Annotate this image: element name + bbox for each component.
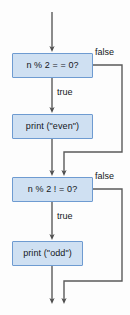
decision-node-even[interactable]: n % 2 = = 0? [12,53,93,78]
flowchart-diagram: n % 2 = = 0? print ("even") n % 2 ! = 0?… [0,0,130,315]
edge-label-true-odd: true [57,212,73,221]
process-node-print-odd[interactable]: print ("odd") [12,241,83,266]
edge-label-false-even: false [95,48,114,57]
edge-label-false-odd: false [95,172,114,181]
process-node-print-even[interactable]: print ("even") [12,114,93,139]
decision-node-odd[interactable]: n % 2 ! = 0? [12,177,93,202]
edge-label-true-even: true [57,88,73,97]
